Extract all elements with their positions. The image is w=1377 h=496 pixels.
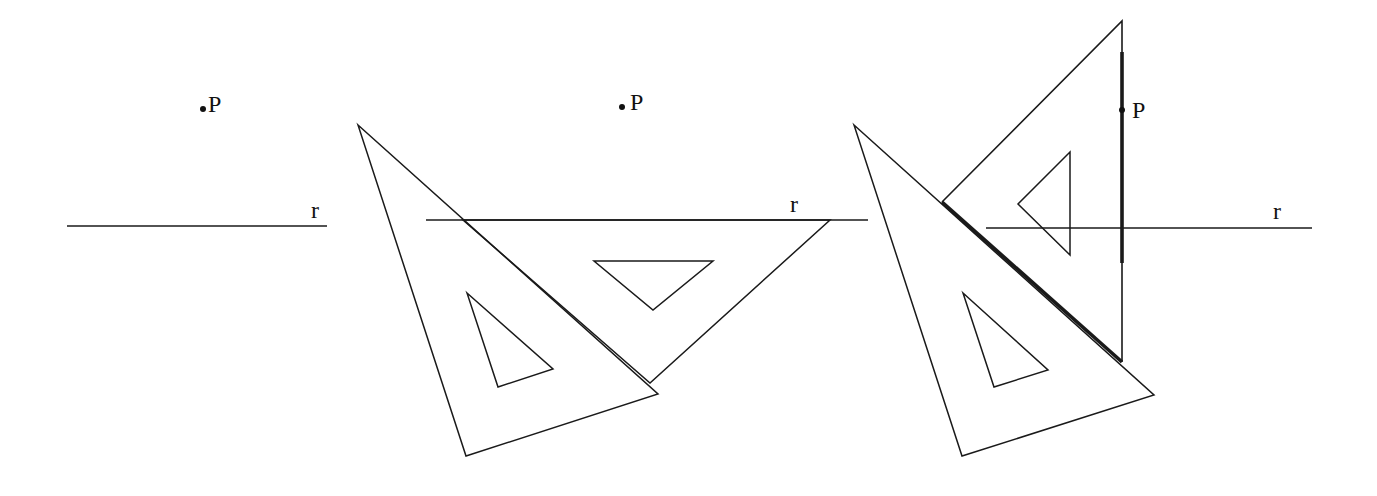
point-p (200, 106, 206, 112)
line-r-label: r (790, 191, 798, 217)
set-square-45 (463, 220, 830, 383)
set-square-30-60-inner (963, 293, 1048, 387)
set-square-30-60-inner (467, 293, 553, 387)
point-p (619, 104, 625, 110)
point-p (1119, 107, 1125, 113)
point-p-label: P (630, 89, 643, 115)
point-p-label: P (208, 91, 221, 117)
line-r-label: r (311, 197, 319, 223)
set-square-45-outer (463, 220, 830, 383)
panel-step-2: r P (358, 89, 868, 456)
panel-step-3: r P (854, 21, 1312, 456)
set-square-30-60-outer (358, 125, 658, 456)
line-r-label: r (1273, 198, 1281, 224)
set-square-30-60-outer (854, 125, 1154, 456)
set-square-45-inner (594, 261, 713, 310)
panel-step-1: r P (67, 91, 327, 226)
set-square-30-60 (854, 125, 1154, 456)
geometry-diagram: r P r P r (0, 0, 1377, 496)
set-square-30-60 (358, 125, 658, 456)
set-square-45-inner (1018, 152, 1070, 255)
point-p-label: P (1132, 97, 1145, 123)
set-square-contact-edge (942, 202, 1122, 362)
